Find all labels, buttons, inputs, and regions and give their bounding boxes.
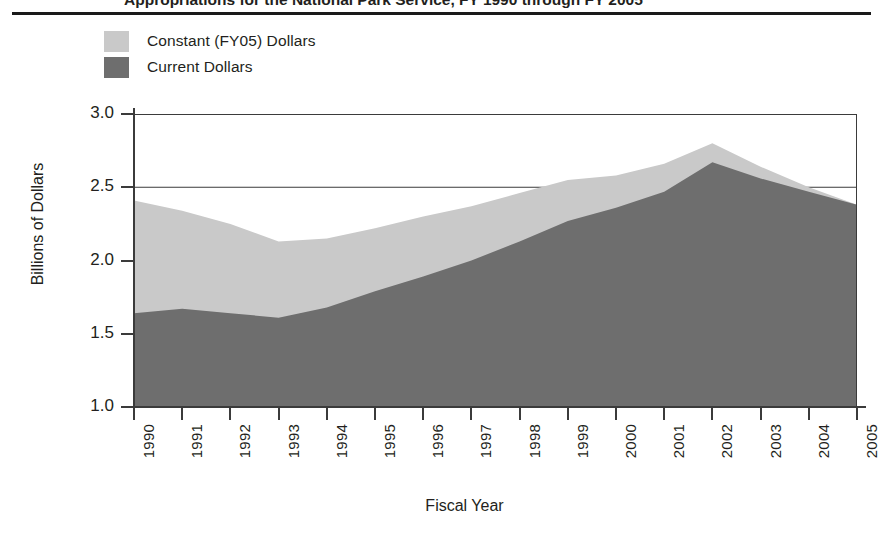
x-axis-tick-label: 1997 xyxy=(477,424,494,458)
legend-item-constant: Constant (FY05) Dollars xyxy=(104,28,316,54)
x-axis-tick xyxy=(278,407,280,420)
figure-container: Appropriations for the National Park Ser… xyxy=(0,0,883,536)
y-axis-tick-label: 1.0 xyxy=(52,396,114,416)
legend-item-current: Current Dollars xyxy=(104,54,316,80)
x-axis-tick-label: 1999 xyxy=(574,424,591,458)
x-axis-title-text: Fiscal Year xyxy=(379,497,503,514)
y-axis-tick-label: 1.5 xyxy=(52,323,114,343)
x-axis-tick xyxy=(422,407,424,420)
x-axis-tick xyxy=(374,407,376,420)
x-axis-tick xyxy=(470,407,472,420)
x-axis-tick xyxy=(519,407,521,420)
y-axis-tick-label: 3.0 xyxy=(52,103,114,123)
x-axis-title: Fiscal Year xyxy=(0,497,883,515)
cutoff-title-clip: Appropriations for the National Park Ser… xyxy=(12,0,883,12)
x-axis-tick xyxy=(615,407,617,420)
y-axis-tick-label: 2.5 xyxy=(52,176,114,196)
x-axis-tick xyxy=(326,407,328,420)
x-axis-tick xyxy=(663,407,665,420)
x-axis-tick-label: 1992 xyxy=(236,424,253,458)
x-axis-tick xyxy=(760,407,762,420)
x-axis-tick xyxy=(711,407,713,420)
x-axis-tick-label: 1990 xyxy=(140,424,157,458)
chart-title: Appropriations for the National Park Ser… xyxy=(124,0,643,9)
x-axis-tick-label: 1995 xyxy=(381,424,398,458)
x-axis-tick-label: 2001 xyxy=(670,424,687,458)
x-axis-tick-label: 1993 xyxy=(285,424,302,458)
area-chart-svg xyxy=(134,114,857,407)
x-axis-tick xyxy=(808,407,810,420)
chart-legend: Constant (FY05) Dollars Current Dollars xyxy=(104,28,316,80)
x-axis-tick-label: 2005 xyxy=(863,424,880,458)
x-axis-tick-label: 1994 xyxy=(333,424,350,458)
legend-swatch-current-icon xyxy=(104,57,129,78)
x-axis-tick-label: 1998 xyxy=(526,424,543,458)
y-axis-tick-label: 2.0 xyxy=(52,250,114,270)
x-axis-tick xyxy=(567,407,569,420)
title-divider-rule: Appropriations for the National Park Ser… xyxy=(12,12,871,15)
legend-label-current: Current Dollars xyxy=(147,58,253,76)
x-axis-tick xyxy=(181,407,183,420)
x-axis-tick xyxy=(229,407,231,420)
x-axis-tick-label: 2003 xyxy=(767,424,784,458)
x-axis-tick xyxy=(856,407,858,420)
legend-swatch-constant-icon xyxy=(104,31,129,52)
plot-area xyxy=(134,114,857,407)
x-axis-tick-label: 2000 xyxy=(622,424,639,458)
x-axis-tick-label: 1996 xyxy=(429,424,446,458)
x-axis-tick-label: 2002 xyxy=(718,424,735,458)
legend-label-constant: Constant (FY05) Dollars xyxy=(147,32,316,50)
x-axis-tick-label: 1991 xyxy=(188,424,205,458)
y-axis-title: Billions of Dollars xyxy=(29,124,47,324)
x-axis-tick-label: 2004 xyxy=(815,424,832,458)
